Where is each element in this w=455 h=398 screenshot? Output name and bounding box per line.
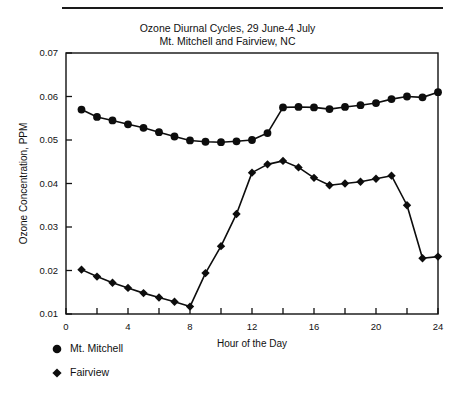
data-series <box>77 88 442 311</box>
data-point-marker <box>171 133 179 141</box>
legend-item-label: Mt. Mitchell <box>70 342 123 354</box>
data-point-marker <box>78 106 86 114</box>
x-tick-label: 0 <box>63 321 68 332</box>
data-point-marker <box>356 178 364 186</box>
y-axis-title: Ozone Concentration, PPM <box>18 123 29 245</box>
data-point-marker <box>419 93 427 101</box>
data-point-marker <box>108 278 116 286</box>
plot-area: 0.010.020.030.040.050.060.07 04812162024… <box>0 0 455 398</box>
x-tick-label: 16 <box>309 321 320 332</box>
chart-legend: Mt. MitchellFairview <box>52 342 123 378</box>
ozone-line-chart: 0.010.020.030.040.050.060.07 04812162024… <box>0 0 455 398</box>
data-point-marker <box>139 289 147 297</box>
data-point-marker <box>279 103 287 111</box>
data-point-marker <box>124 120 132 128</box>
data-point-marker <box>263 160 271 168</box>
data-point-marker <box>233 137 241 145</box>
data-point-marker <box>155 293 163 301</box>
data-point-marker <box>140 124 148 132</box>
data-point-marker <box>403 93 411 101</box>
data-point-marker <box>372 175 380 183</box>
legend-item-label: Fairview <box>70 366 110 378</box>
data-point-marker <box>357 101 365 109</box>
data-point-marker <box>217 138 225 146</box>
x-tick-label: 12 <box>247 321 258 332</box>
data-point-marker <box>403 201 411 209</box>
y-tick-label: 0.04 <box>40 178 59 189</box>
x-tick-label: 24 <box>433 321 444 332</box>
y-tick-label: 0.03 <box>40 221 59 232</box>
data-point-marker <box>217 242 225 250</box>
data-point-marker <box>109 117 117 125</box>
data-point-marker <box>186 302 194 310</box>
data-point-marker <box>52 368 61 377</box>
data-point-marker <box>279 157 287 165</box>
data-point-marker <box>264 129 272 137</box>
data-point-marker <box>295 103 303 111</box>
y-tick-label: 0.01 <box>40 308 59 319</box>
data-point-marker <box>248 168 256 176</box>
data-point-marker <box>170 298 178 306</box>
axes-frame <box>66 53 438 314</box>
data-point-marker <box>434 88 442 96</box>
x-axis-ticks: 04812162024 <box>63 308 443 332</box>
legend-item-mt-mitchell[interactable]: Mt. Mitchell <box>53 342 123 354</box>
data-point-marker <box>201 269 209 277</box>
series-line <box>82 92 439 142</box>
x-axis-label-text: Hour of the Day <box>217 338 287 349</box>
data-point-marker <box>93 272 101 280</box>
legend-item-fairview[interactable]: Fairview <box>52 366 109 378</box>
x-axis-title: Hour of the Day <box>217 338 287 349</box>
figure-page: Ozone Diurnal Cycles, 29 June-4 July Mt.… <box>0 0 455 398</box>
y-tick-label: 0.07 <box>40 47 59 58</box>
data-point-marker <box>232 210 240 218</box>
data-point-marker <box>326 105 334 113</box>
data-point-marker <box>93 113 101 121</box>
data-point-marker <box>388 95 396 103</box>
x-tick-label: 20 <box>371 321 382 332</box>
x-tick-label: 8 <box>187 321 192 332</box>
data-point-marker <box>341 179 349 187</box>
data-point-marker <box>53 345 62 354</box>
x-tick-label: 4 <box>125 321 130 332</box>
y-tick-label: 0.06 <box>40 91 59 102</box>
data-point-marker <box>248 136 256 144</box>
y-axis-label-text: Ozone Concentration, PPM <box>18 123 29 245</box>
series-mt-mitchell <box>78 88 442 146</box>
data-point-marker <box>341 103 349 111</box>
data-point-marker <box>202 138 210 146</box>
data-point-marker <box>434 252 442 260</box>
y-tick-label: 0.05 <box>40 134 59 145</box>
data-point-marker <box>186 137 194 145</box>
data-point-marker <box>387 171 395 179</box>
y-tick-label: 0.02 <box>40 265 59 276</box>
data-point-marker <box>418 254 426 262</box>
series-line <box>82 161 439 307</box>
data-point-marker <box>124 284 132 292</box>
data-point-marker <box>310 103 318 111</box>
data-point-marker <box>155 128 163 136</box>
data-point-marker <box>325 181 333 189</box>
series-fairview <box>77 157 442 311</box>
data-point-marker <box>372 99 380 107</box>
y-axis-ticks: 0.010.020.030.040.050.060.07 <box>40 47 73 319</box>
data-point-marker <box>77 265 85 273</box>
